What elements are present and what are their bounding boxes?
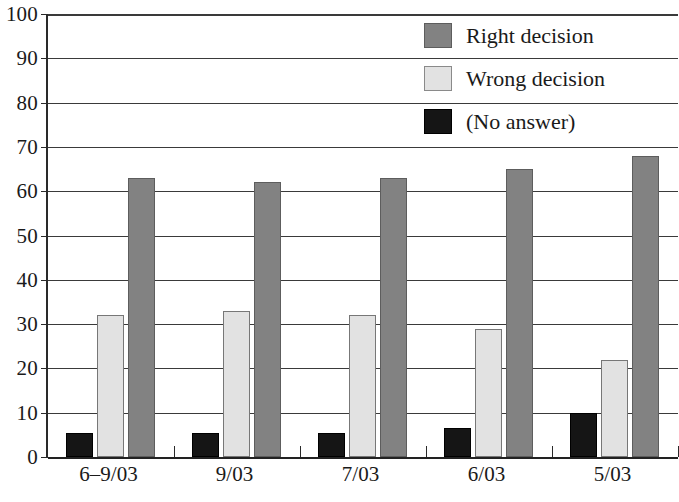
x-tick-mark: [552, 446, 553, 457]
y-tick-label: 100: [6, 4, 38, 25]
y-tick-label: 40: [17, 269, 38, 290]
bar: [506, 169, 533, 457]
y-tick-mark: [41, 191, 48, 192]
bar: [570, 413, 597, 457]
x-tick-label: 5/03: [594, 462, 631, 487]
bar: [632, 156, 659, 457]
bar: [380, 178, 407, 457]
gridline: [48, 457, 678, 459]
y-tick-mark: [41, 324, 48, 325]
y-tick-label: 80: [17, 92, 38, 113]
y-tick-mark: [41, 413, 48, 414]
y-tick-label: 60: [17, 181, 38, 202]
legend-swatch-right-decision: [424, 23, 452, 48]
chart-legend: Right decisionWrong decision(No answer): [424, 14, 676, 143]
y-axis: 1009080706050403020100: [0, 0, 44, 502]
bar: [475, 329, 502, 457]
bar: [601, 360, 628, 457]
y-tick-label: 70: [17, 136, 38, 157]
y-tick-mark: [41, 14, 48, 15]
bar: [444, 428, 471, 457]
x-tick-mark: [174, 446, 175, 457]
x-tick-mark: [300, 446, 301, 457]
y-tick-mark: [41, 103, 48, 104]
x-tick-label: 6/03: [468, 462, 505, 487]
bar: [318, 433, 345, 457]
x-tick-label: 7/03: [342, 462, 379, 487]
bar: [223, 311, 250, 457]
legend-swatch-wrong-decision: [424, 66, 452, 91]
y-tick-mark: [41, 280, 48, 281]
y-tick-label: 10: [17, 402, 38, 423]
legend-item: (No answer): [424, 100, 676, 143]
y-tick-mark: [41, 58, 48, 59]
bar: [192, 433, 219, 457]
x-axis: 6–9/039/037/036/035/03: [46, 462, 676, 496]
y-tick-label: 0: [27, 447, 38, 468]
y-tick-mark: [41, 368, 48, 369]
y-tick-label: 30: [17, 314, 38, 335]
bar: [349, 315, 376, 457]
y-tick-mark: [41, 457, 48, 458]
bar: [128, 178, 155, 457]
legend-item: Right decision: [424, 14, 676, 57]
legend-item-label: Wrong decision: [466, 68, 605, 90]
bar: [254, 182, 281, 457]
x-tick-mark: [426, 446, 427, 457]
x-tick-label: 9/03: [216, 462, 253, 487]
bar: [66, 433, 93, 457]
legend-item-label: Right decision: [466, 25, 594, 47]
y-tick-label: 20: [17, 358, 38, 379]
legend-swatch-no-answer: [424, 109, 452, 134]
y-tick-label: 50: [17, 225, 38, 246]
y-tick-mark: [41, 147, 48, 148]
y-tick-label: 90: [17, 48, 38, 69]
bar: [97, 315, 124, 457]
legend-item: Wrong decision: [424, 57, 676, 100]
x-tick-label: 6–9/03: [79, 462, 137, 487]
y-tick-mark: [41, 236, 48, 237]
legend-item-label: (No answer): [466, 111, 575, 133]
